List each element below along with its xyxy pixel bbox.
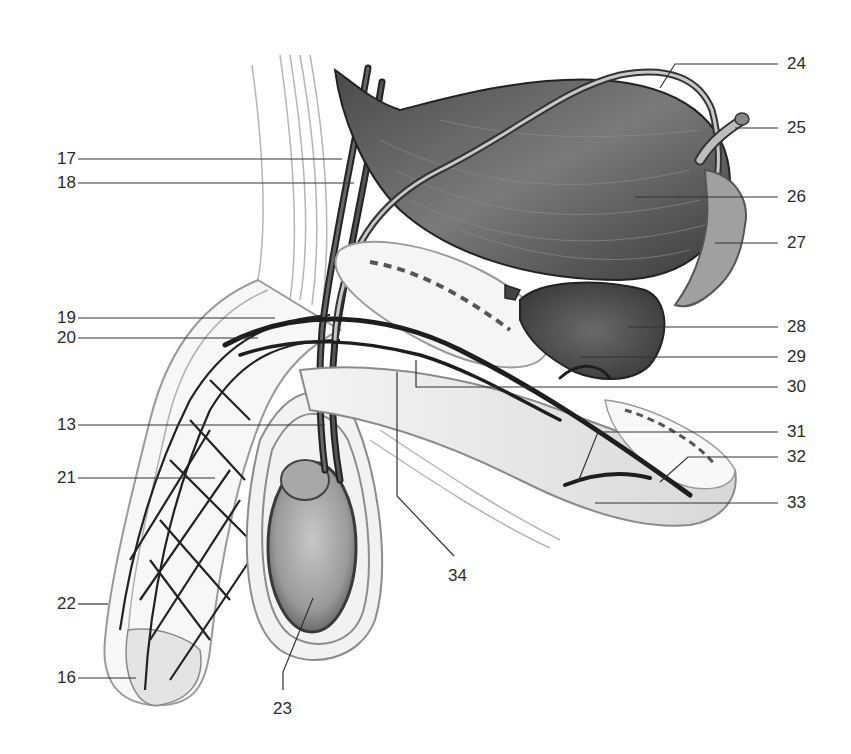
label-29: 29: [787, 347, 806, 367]
label-33: 33: [787, 493, 806, 513]
label-21: 21: [36, 468, 76, 488]
anatomy-illustration: [0, 0, 851, 754]
label-20: 20: [36, 328, 76, 348]
testis: [268, 460, 356, 632]
label-18: 18: [36, 173, 76, 193]
label-13: 13: [36, 415, 76, 435]
label-22: 22: [36, 594, 76, 614]
label-34: 34: [448, 566, 467, 586]
label-28: 28: [787, 317, 806, 337]
label-17: 17: [36, 149, 76, 169]
label-30: 30: [787, 377, 806, 397]
label-32: 32: [787, 447, 806, 467]
label-24: 24: [787, 54, 806, 74]
label-25: 25: [787, 118, 806, 138]
label-19: 19: [36, 308, 76, 328]
label-23: 23: [273, 699, 292, 719]
label-27: 27: [787, 233, 806, 253]
label-26: 26: [787, 187, 806, 207]
label-16: 16: [36, 668, 76, 688]
label-31: 31: [787, 422, 806, 442]
